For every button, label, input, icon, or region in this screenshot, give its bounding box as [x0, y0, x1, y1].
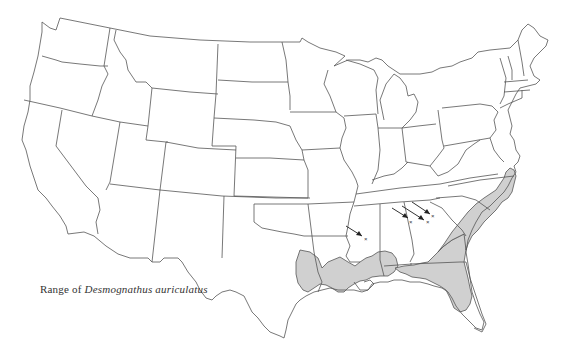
border-wi-il — [344, 114, 376, 116]
border-il-in — [372, 114, 380, 184]
border-tx-ok — [254, 204, 312, 236]
border-tn-north — [356, 174, 498, 194]
border-id-mt — [114, 30, 152, 88]
border-oh-pa — [438, 110, 444, 148]
range-area-gulf-east — [395, 234, 472, 312]
border-wv-va — [430, 140, 480, 176]
us-range-map: × × × × — [0, 0, 577, 355]
long-island — [500, 98, 522, 108]
michigan-lower-peninsula — [380, 74, 418, 128]
border-pa-nj — [490, 106, 498, 138]
border-ut-wy — [146, 126, 168, 142]
border-co-east — [234, 146, 236, 196]
arrowhead-icon — [424, 209, 430, 214]
border-sd-ne — [214, 118, 290, 126]
border-nh-me — [518, 40, 524, 76]
locality-x-georgia-2: × — [431, 213, 435, 219]
border-ma-north — [504, 80, 528, 82]
border-nm-east — [222, 196, 224, 258]
border-ia-mo — [302, 148, 340, 150]
locality-x-georgia-1: × — [426, 219, 430, 225]
border-mt-wy — [152, 88, 218, 94]
border-wa-or — [42, 56, 108, 66]
border-or-ca-nv — [24, 100, 92, 116]
border-vt-nh — [508, 56, 512, 80]
border-oh-ky-wv — [406, 148, 444, 166]
border-ut-co — [160, 142, 166, 190]
border-id-south — [92, 116, 148, 126]
border-az-nm — [152, 190, 160, 262]
caption-prefix: Range of — [40, 283, 82, 295]
border-nv-ut — [106, 122, 120, 190]
arrowhead-icon — [356, 231, 362, 236]
border-mo-ar — [308, 186, 358, 204]
border-pa-ny — [442, 104, 492, 108]
map-caption: Range of Desmognathus auriculatus — [40, 283, 208, 295]
border-mn-wi — [324, 70, 336, 112]
border-id-wy — [148, 88, 152, 126]
border-ar-ms — [346, 202, 360, 262]
border-mi-wi — [346, 60, 378, 114]
border-nd-sd — [218, 80, 288, 82]
border-wa-id — [104, 28, 110, 66]
border-dakotas-mn — [282, 42, 290, 110]
border-ne-ia-mo — [290, 126, 308, 198]
border-nv-ca — [56, 110, 100, 234]
border-ma-ct-ri — [504, 90, 530, 92]
disjunct-locality-markers: × × × × — [346, 202, 435, 242]
border-ne-ks — [236, 158, 304, 160]
border-md-de — [490, 138, 504, 162]
arrowhead-icon — [418, 215, 424, 220]
locality-x-mississippi: × — [364, 236, 368, 242]
border-ut-az — [110, 184, 222, 196]
range-areas — [296, 168, 516, 312]
border-tn-south — [354, 198, 440, 206]
border-wy-sd-ne — [212, 44, 218, 146]
border-or-id — [92, 66, 108, 116]
border-mo-il — [340, 148, 358, 186]
locality-x-alabama: × — [409, 219, 413, 225]
border-pa-md — [444, 138, 490, 146]
caption-species-name: Desmognathus auriculatus — [85, 283, 208, 295]
border-ia-il — [336, 112, 346, 148]
border-ny-vt-ma — [500, 58, 506, 104]
border-in-oh — [402, 128, 406, 162]
border-ohio-north — [378, 124, 436, 128]
